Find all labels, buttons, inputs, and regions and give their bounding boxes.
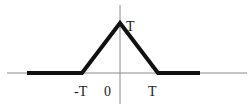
diagram-canvas: T -T 0 T [0, 0, 249, 111]
triangle-pulse-diagram: T -T 0 T [0, 0, 249, 111]
pos-t-label: T [148, 84, 157, 99]
pulse-curve [27, 23, 200, 73]
peak-label: T [126, 19, 135, 34]
neg-t-label: -T [74, 84, 88, 99]
origin-label: 0 [104, 84, 111, 99]
